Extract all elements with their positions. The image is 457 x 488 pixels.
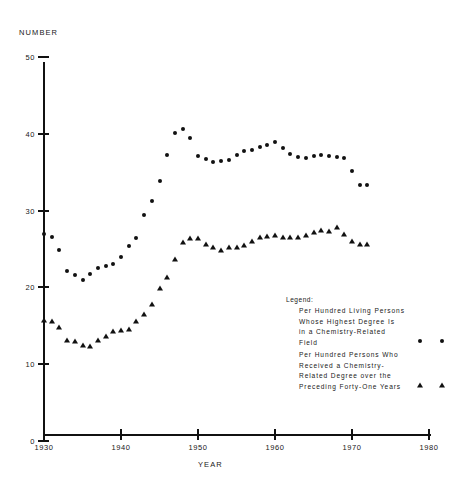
chart-legend: Legend: Per Hundred Living PersonsWhose …: [286, 296, 451, 394]
data-point: [118, 327, 124, 332]
y-tick-mark: [38, 363, 49, 365]
data-point: [326, 229, 332, 234]
data-point: [342, 156, 346, 160]
data-point: [142, 213, 146, 217]
data-point: [57, 248, 61, 252]
legend-triangle-marker: [439, 383, 445, 388]
data-point: [104, 264, 108, 268]
data-point: [219, 159, 223, 163]
data-point: [195, 236, 201, 241]
data-point: [319, 153, 323, 157]
data-point: [187, 236, 193, 241]
data-point: [181, 127, 185, 131]
data-point: [335, 155, 339, 159]
data-point: [296, 155, 300, 159]
x-tick-label: 1970: [342, 443, 361, 452]
data-point: [304, 156, 308, 160]
legend-circle-marker: [418, 339, 422, 343]
legend-marker-pair: [416, 381, 450, 389]
data-point: [150, 199, 154, 203]
data-point: [172, 256, 178, 261]
data-point: [358, 183, 362, 187]
data-point: [111, 262, 115, 266]
data-point: [173, 131, 177, 135]
data-point: [65, 269, 69, 273]
legend-title: Legend:: [286, 296, 451, 303]
data-point: [257, 235, 263, 240]
legend-entry-1: Per Hundred Living PersonsWhose Highest …: [286, 306, 451, 348]
data-point: [72, 339, 78, 344]
data-point: [318, 227, 324, 232]
data-point: [164, 275, 170, 280]
data-point: [349, 239, 355, 244]
data-point: [226, 245, 232, 250]
data-point: [188, 136, 192, 140]
data-point: [49, 319, 55, 324]
chart-canvas: NUMBER YEAR 01020304050 1930194019501960…: [0, 0, 457, 488]
data-point: [64, 337, 70, 342]
y-tick-label: 40: [25, 129, 35, 138]
data-point: [96, 266, 100, 270]
data-point: [341, 231, 347, 236]
data-point: [87, 343, 93, 348]
data-point: [258, 145, 262, 149]
data-point: [288, 152, 292, 156]
data-point: [287, 234, 293, 239]
data-point: [295, 234, 301, 239]
y-tick-label: 50: [25, 53, 35, 62]
x-tick-mark: [351, 429, 353, 440]
data-point: [303, 233, 309, 238]
data-point: [334, 224, 340, 229]
data-point: [41, 318, 47, 323]
data-point: [227, 158, 231, 162]
x-tick-label: 1960: [265, 443, 284, 452]
data-point: [50, 235, 54, 239]
data-point: [133, 319, 139, 324]
data-point: [134, 236, 138, 240]
x-axis-line: [43, 434, 431, 436]
legend-triangle-marker: [417, 383, 423, 388]
legend-entry-list: Per Hundred Living PersonsWhose Highest …: [286, 306, 451, 392]
data-point: [265, 143, 269, 147]
data-point: [249, 238, 255, 243]
data-point: [110, 329, 116, 334]
data-point: [80, 343, 86, 348]
data-point: [204, 157, 208, 161]
data-point: [281, 146, 285, 150]
x-tick-mark: [120, 429, 122, 440]
data-point: [81, 278, 85, 282]
data-point: [234, 245, 240, 250]
data-point: [264, 233, 270, 238]
y-axis-title: NUMBER: [19, 28, 58, 37]
y-tick-mark: [38, 440, 49, 442]
data-point: [56, 325, 62, 330]
data-point: [235, 153, 239, 157]
data-point: [103, 333, 109, 338]
y-tick-mark: [38, 210, 49, 212]
legend-text-line: Per Hundred Living Persons: [299, 306, 451, 317]
data-point: [165, 153, 169, 157]
data-point: [119, 255, 123, 259]
x-tick-label: 1950: [188, 443, 207, 452]
data-point: [141, 312, 147, 317]
y-tick-label: 10: [25, 360, 35, 369]
y-tick-mark: [38, 286, 49, 288]
data-point: [88, 272, 92, 276]
data-point: [273, 140, 277, 144]
data-point: [73, 273, 77, 277]
data-point: [203, 242, 209, 247]
data-point: [250, 148, 254, 152]
y-tick-mark: [38, 133, 49, 135]
data-point: [158, 179, 162, 183]
legend-text-line: Received a Chemistry-: [299, 361, 451, 372]
data-point: [327, 154, 331, 158]
data-point: [350, 169, 354, 173]
data-point: [311, 230, 317, 235]
data-point: [365, 183, 369, 187]
legend-text-line: in a Chemistry-Related: [299, 327, 451, 338]
data-point: [126, 326, 132, 331]
data-point: [218, 247, 224, 252]
legend-text-line: Per Hundred Persons Who: [299, 350, 451, 361]
data-point: [196, 154, 200, 158]
data-point: [211, 160, 215, 164]
